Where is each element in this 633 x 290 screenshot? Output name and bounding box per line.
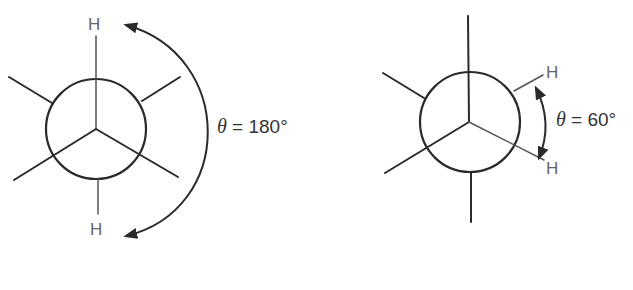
back-bond-upper-left xyxy=(9,77,52,103)
angle-label-180: θ = 180° xyxy=(217,115,288,137)
newman-projections-diagram: H H θ = 180° H H θ = 60° xyxy=(0,0,633,290)
back-bond-upper-right xyxy=(142,77,180,101)
atom-h-top: H xyxy=(88,15,100,34)
angle-label-60: θ = 60° xyxy=(556,108,616,130)
newman-projection-anti: H H θ = 180° xyxy=(9,15,288,239)
front-bond-lower-right-h xyxy=(469,122,544,160)
front-bond-lower-right xyxy=(96,129,178,177)
atom-h-lower-right: H xyxy=(546,159,558,178)
front-bond-lower-left xyxy=(385,122,469,173)
back-bond-upper-right-h xyxy=(514,75,543,91)
atom-h-bottom: H xyxy=(90,220,102,239)
front-bond-lower-left xyxy=(14,129,96,180)
dihedral-arc-60 xyxy=(536,88,545,158)
newman-projection-gauche: H H θ = 60° xyxy=(383,16,616,222)
back-bond-upper-left xyxy=(383,73,424,98)
atom-h-upper-right: H xyxy=(546,63,558,82)
dihedral-arc-180 xyxy=(126,25,208,236)
front-bond-up xyxy=(468,16,469,122)
